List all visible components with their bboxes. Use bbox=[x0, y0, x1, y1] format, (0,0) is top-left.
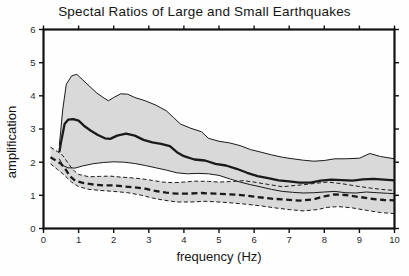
x-tick-label: 1 bbox=[76, 234, 81, 245]
spectral-ratio-chart: 0123456789100123456 bbox=[0, 0, 409, 276]
chart-title: Spectal Ratios of Large and Small Earthq… bbox=[0, 4, 409, 19]
x-tick-label: 9 bbox=[357, 234, 362, 245]
y-tick-label: 6 bbox=[30, 24, 35, 35]
x-tick-label: 3 bbox=[146, 234, 151, 245]
x-tick-label: 5 bbox=[216, 234, 221, 245]
x-axis-label: frequency (Hz) bbox=[43, 249, 395, 264]
x-tick-label: 6 bbox=[251, 234, 256, 245]
y-tick-label: 3 bbox=[30, 123, 35, 134]
earthquake-spectral-ratio-figure: Spectal Ratios of Large and Small Earthq… bbox=[0, 0, 409, 276]
x-tick-label: 4 bbox=[181, 234, 186, 245]
y-axis-label: amplification bbox=[4, 87, 19, 197]
y-tick-label: 5 bbox=[30, 57, 35, 68]
x-tick-label: 0 bbox=[41, 234, 46, 245]
y-tick-label: 4 bbox=[30, 90, 35, 101]
x-tick-label: 2 bbox=[111, 234, 116, 245]
x-tick-label: 7 bbox=[287, 234, 292, 245]
x-tick-label: 8 bbox=[322, 234, 327, 245]
x-tick-label: 10 bbox=[389, 234, 400, 245]
y-tick-label: 1 bbox=[30, 190, 35, 201]
confidence-band-large-earthquakes bbox=[59, 74, 394, 193]
y-tick-label: 2 bbox=[30, 157, 35, 168]
y-tick-label: 0 bbox=[30, 223, 35, 234]
